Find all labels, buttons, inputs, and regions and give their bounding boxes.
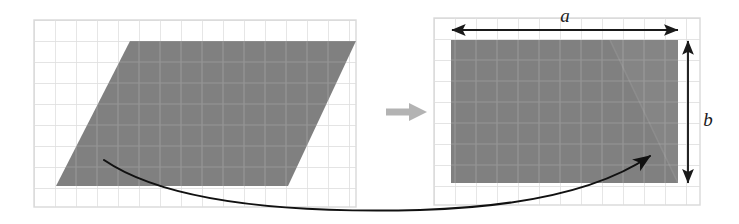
width-label: a <box>560 5 570 26</box>
left-panel <box>34 20 356 207</box>
height-label: b <box>703 109 713 130</box>
geometry-figure: a b <box>0 0 739 224</box>
right-panel <box>434 18 700 205</box>
figure-root: a b <box>0 0 739 224</box>
